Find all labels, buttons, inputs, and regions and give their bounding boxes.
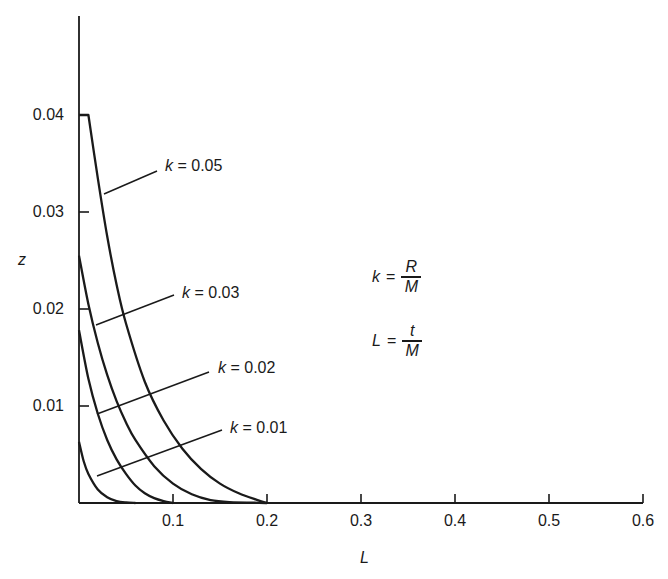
series-label-value: = 0.01 — [238, 419, 287, 436]
series-label-var: k — [182, 284, 190, 301]
curve-k002 — [79, 330, 173, 503]
y-axis-label: z — [18, 252, 26, 268]
leader-line-k003 — [96, 295, 174, 325]
series-label-k003: k = 0.03 — [182, 285, 239, 301]
x-tick-label: 0.2 — [247, 513, 287, 529]
x-tick-label: 0.1 — [153, 513, 193, 529]
label-leader-lines — [96, 171, 222, 476]
leader-line-k005 — [104, 171, 157, 194]
y-tick-label: 0.02 — [4, 301, 64, 317]
fraction-denominator: M — [405, 278, 418, 296]
formula-k-definition: k = R M — [372, 258, 421, 296]
x-tick-label: 0.6 — [623, 513, 663, 529]
series-label-value: = 0.02 — [226, 359, 275, 376]
y-tick-label: 0.01 — [4, 398, 64, 414]
formula-lhs: L — [372, 332, 381, 350]
fraction: t M — [402, 322, 422, 360]
axis-ticks — [79, 115, 643, 503]
fraction-numerator: t — [410, 322, 414, 340]
fraction: R M — [401, 258, 421, 296]
series-label-var: k — [230, 419, 238, 436]
x-axis-label: L — [360, 550, 369, 566]
series-label-k001: k = 0.01 — [230, 420, 287, 436]
x-tick-label: 0.4 — [435, 513, 475, 529]
series-label-var: k — [165, 157, 173, 174]
series-label-value: = 0.03 — [190, 284, 239, 301]
fraction-numerator: R — [406, 258, 418, 276]
leader-line-k001 — [97, 430, 222, 476]
fraction-denominator: M — [406, 342, 419, 360]
x-tick-label: 0.5 — [529, 513, 569, 529]
formula-L-definition: L = t M — [372, 322, 422, 360]
chart-plot — [0, 0, 668, 579]
y-tick-label: 0.04 — [4, 107, 64, 123]
series-label-k005: k = 0.05 — [165, 158, 222, 174]
axes — [79, 16, 643, 503]
series-label-value: = 0.05 — [173, 157, 222, 174]
formula-equals: = — [387, 332, 396, 350]
y-tick-label: 0.03 — [4, 204, 64, 220]
series-label-var: k — [218, 359, 226, 376]
formula-equals: = — [386, 268, 395, 286]
series-label-k002: k = 0.02 — [218, 360, 275, 376]
formula-lhs: k — [372, 268, 380, 286]
x-tick-label: 0.3 — [341, 513, 381, 529]
